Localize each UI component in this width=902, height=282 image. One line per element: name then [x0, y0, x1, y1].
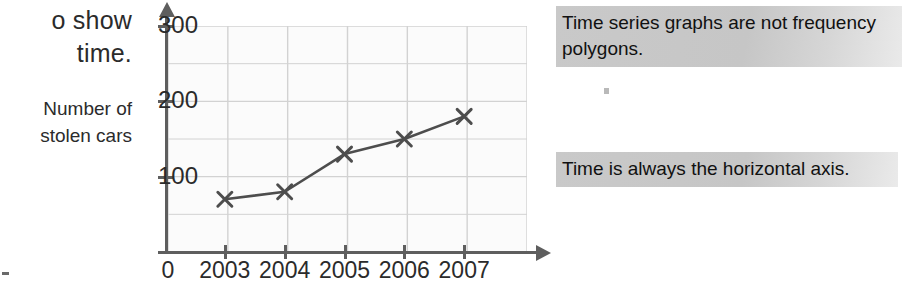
- page-edge-artifact: [2, 272, 9, 275]
- gridlines: [168, 26, 527, 252]
- y-axis-label-200: 200: [118, 88, 198, 112]
- x-axis-line: [158, 251, 538, 254]
- plot-svg: [168, 26, 527, 252]
- y-axis-label-100: 100: [118, 164, 198, 188]
- x-axis-arrowhead: [536, 245, 551, 261]
- time-series-chart: 100200300 20032004200520062007 0: [150, 0, 550, 282]
- callout-note-2: Time is always the horizontal axis.: [556, 152, 898, 187]
- callout-note-1: Time series graphs are not frequency pol…: [556, 6, 902, 67]
- y-axis-title-line-2: stolen cars: [0, 122, 140, 149]
- fragment-line-2: time.: [0, 37, 140, 70]
- y-axis-label-300: 300: [118, 13, 198, 37]
- data-line: [225, 116, 464, 199]
- data-point-markers: [218, 109, 471, 206]
- origin-label: 0: [148, 258, 188, 282]
- plot-area: [168, 26, 527, 252]
- y-axis-line: [165, 14, 168, 254]
- x-axis-label-2007: 2007: [429, 258, 499, 282]
- scan-speck: [604, 88, 609, 94]
